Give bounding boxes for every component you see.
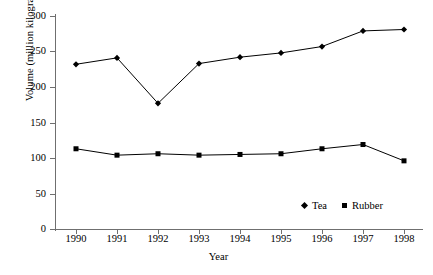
data-point [156,151,161,156]
data-point [237,54,243,60]
data-point [402,158,407,163]
data-point [115,153,120,158]
data-point [401,26,407,32]
series-tea [73,26,407,106]
legend-entry-rubber: Rubber [341,200,383,211]
legend-label-tea: Tea [312,200,327,211]
chart-legend: Tea Rubber [301,200,383,211]
data-point [278,50,284,56]
data-point [73,61,79,67]
data-point [238,152,243,157]
data-point [74,146,79,151]
square-marker-icon [342,203,347,208]
diamond-marker-icon [301,202,308,209]
legend-label-rubber: Rubber [352,200,383,211]
data-point [320,146,325,151]
line-chart: Volume (million kilograms) 300 250 200 1… [0,0,433,275]
data-point [361,142,366,147]
data-point [279,151,284,156]
data-point [319,43,325,49]
series-rubber [74,142,407,163]
legend-entry-tea: Tea [301,200,327,211]
data-point [197,153,202,158]
data-point [360,28,366,34]
series-layer [0,0,433,275]
